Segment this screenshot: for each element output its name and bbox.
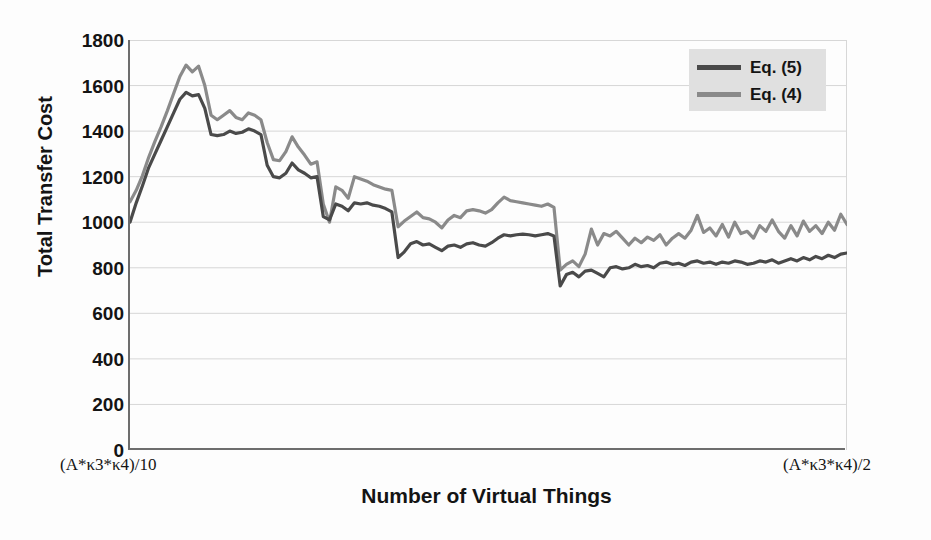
series-line	[130, 92, 847, 286]
y-tick-label: 1000	[52, 213, 124, 232]
y-tick-label: 400	[52, 350, 124, 369]
legend-label-eq4: Eq. (4)	[750, 85, 802, 105]
x-axis-right-endpoint-label: (A*κ3*κ4)/2	[783, 455, 871, 475]
y-tick-label: 1600	[52, 77, 124, 96]
x-axis-title: Number of Virtual Things	[128, 484, 845, 508]
x-axis-left-endpoint-label: (A*κ3*κ4)/10	[60, 455, 156, 475]
legend-swatch-eq4	[697, 92, 741, 97]
chart-figure: Total Transfer Cost 18001600140012001000…	[0, 0, 931, 540]
y-tick-label: 200	[52, 395, 124, 414]
y-tick-label: 800	[52, 259, 124, 278]
y-tick-label: 1400	[52, 122, 124, 141]
chart-legend: Eq. (5) Eq. (4)	[689, 49, 826, 111]
y-tick-label: 1200	[52, 168, 124, 187]
legend-label-eq5: Eq. (5)	[750, 58, 802, 78]
y-tick-label: 1800	[52, 31, 124, 50]
legend-item-eq5[interactable]: Eq. (5)	[697, 54, 818, 81]
legend-swatch-eq5	[697, 65, 741, 70]
y-tick-label: 600	[52, 304, 124, 323]
legend-item-eq4[interactable]: Eq. (4)	[697, 81, 818, 108]
